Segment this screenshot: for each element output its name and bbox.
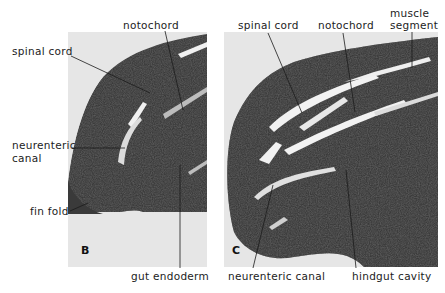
label-b-neurenteric-canal-line1: neurenteric [12,139,76,151]
label-c-spinal-cord: spinal cord [238,19,299,31]
label-b-notochord: notochord [123,19,179,31]
micrograph-panel-c: C [224,32,438,267]
label-c-notochord: notochord [318,19,374,31]
tissue-section-c [224,32,438,267]
label-b-neurenteric-canal-line2: canal [12,152,42,164]
label-c-hindgut-cavity: hindgut cavity [352,270,432,282]
label-c-muscle-segment-line2: segment [390,19,438,31]
label-c-neurenteric-canal: neurenteric canal [228,270,325,282]
label-b-gut-endoderm: gut endoderm [131,270,209,282]
label-b-spinal-cord: spinal cord [12,45,73,57]
figure-caption-cutoff [0,286,445,293]
tissue-section-b [68,32,207,267]
panel-letter-c: C [232,244,240,257]
label-c-muscle-segment-line1: muscle [390,7,429,19]
panel-letter-b: B [81,244,89,257]
label-b-fin-fold: fin fold [30,205,69,217]
micrograph-panel-b: B [68,32,207,267]
